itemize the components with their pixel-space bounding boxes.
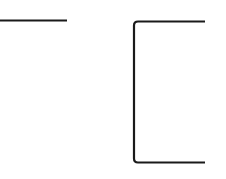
diagram-canvas	[0, 0, 226, 179]
diagram-svg	[0, 0, 226, 179]
background	[0, 0, 226, 179]
